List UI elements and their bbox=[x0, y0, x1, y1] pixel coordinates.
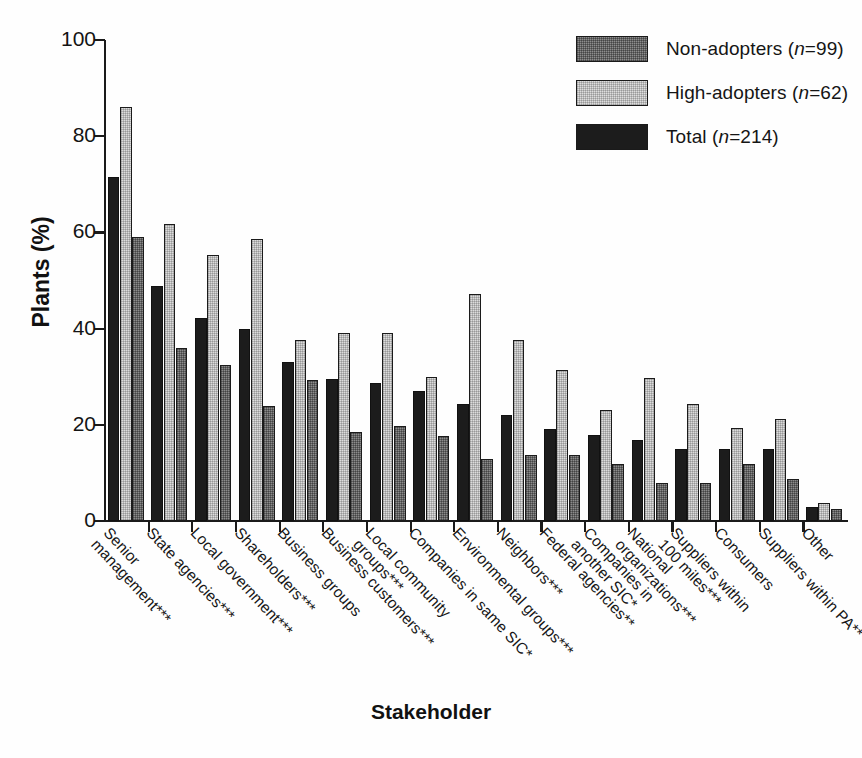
bar-group bbox=[544, 40, 580, 521]
bar-non[interactable] bbox=[700, 483, 712, 521]
bar-group bbox=[108, 40, 144, 521]
x-axis-category-labels: Seniormanagement***State agencies***Loca… bbox=[105, 524, 862, 714]
bar-total[interactable] bbox=[763, 449, 775, 521]
bar-total[interactable] bbox=[806, 507, 818, 521]
bar-high[interactable] bbox=[687, 404, 699, 521]
bar-non[interactable] bbox=[569, 455, 581, 521]
y-axis-title: Plants (%) bbox=[28, 216, 55, 327]
bar-total[interactable] bbox=[370, 383, 382, 521]
x-category-label-line: Other bbox=[798, 524, 837, 564]
bar-group bbox=[326, 40, 362, 521]
bar-high[interactable] bbox=[775, 419, 787, 521]
bar-total[interactable] bbox=[501, 415, 513, 521]
bar-group bbox=[588, 40, 624, 521]
y-tick-label: 60 bbox=[73, 219, 96, 243]
x-axis-title: Stakeholder bbox=[0, 700, 862, 724]
bar-group bbox=[763, 40, 799, 521]
bar-high[interactable] bbox=[120, 107, 132, 521]
bar-non[interactable] bbox=[481, 459, 493, 521]
bar-high[interactable] bbox=[600, 410, 612, 521]
bar-non[interactable] bbox=[525, 455, 537, 521]
bar-non[interactable] bbox=[176, 348, 188, 521]
bar-non[interactable] bbox=[132, 237, 144, 521]
bar-total[interactable] bbox=[675, 449, 687, 521]
bar-non[interactable] bbox=[787, 479, 799, 521]
bar-group bbox=[370, 40, 406, 521]
bar-high[interactable] bbox=[469, 294, 481, 521]
bar-high[interactable] bbox=[295, 340, 307, 521]
bar-non[interactable] bbox=[394, 426, 406, 521]
bar-non[interactable] bbox=[350, 432, 362, 521]
bar-group bbox=[632, 40, 668, 521]
bar-high[interactable] bbox=[207, 255, 219, 521]
bar-non[interactable] bbox=[438, 436, 450, 521]
y-tick-label: 20 bbox=[73, 412, 96, 436]
y-tick-label: 80 bbox=[73, 123, 96, 147]
bar-total[interactable] bbox=[413, 391, 425, 521]
bar-total[interactable] bbox=[544, 429, 556, 521]
bar-non[interactable] bbox=[743, 464, 755, 521]
bar-series-container bbox=[105, 40, 847, 521]
bar-group bbox=[151, 40, 187, 521]
bar-group bbox=[282, 40, 318, 521]
bar-non[interactable] bbox=[220, 365, 232, 521]
bar-group bbox=[195, 40, 231, 521]
bar-high[interactable] bbox=[382, 333, 394, 521]
bar-high[interactable] bbox=[556, 370, 568, 521]
bar-total[interactable] bbox=[239, 329, 251, 521]
bar-group bbox=[413, 40, 449, 521]
bar-total[interactable] bbox=[282, 362, 294, 521]
bar-high[interactable] bbox=[426, 377, 438, 521]
bar-non[interactable] bbox=[263, 406, 275, 521]
bar-total[interactable] bbox=[588, 435, 600, 521]
y-tick-label: 0 bbox=[84, 508, 96, 532]
bar-high[interactable] bbox=[251, 239, 263, 521]
bar-total[interactable] bbox=[195, 318, 207, 521]
y-tick-label: 40 bbox=[73, 316, 96, 340]
bar-non[interactable] bbox=[831, 509, 843, 521]
bar-total[interactable] bbox=[151, 286, 163, 521]
bar-high[interactable] bbox=[164, 224, 176, 521]
bar-high[interactable] bbox=[513, 340, 525, 521]
bar-total[interactable] bbox=[108, 177, 120, 521]
bar-non[interactable] bbox=[307, 380, 319, 521]
y-tick-label: 100 bbox=[61, 27, 96, 51]
bar-group bbox=[457, 40, 493, 521]
bar-total[interactable] bbox=[632, 440, 644, 521]
bar-group bbox=[675, 40, 711, 521]
x-category-label: Other bbox=[798, 524, 837, 564]
bar-high[interactable] bbox=[818, 503, 830, 521]
chart-figure: Non-adopters (n=99)High-adopters (n=62)T… bbox=[0, 0, 862, 758]
bar-group bbox=[501, 40, 537, 521]
bar-total[interactable] bbox=[326, 379, 338, 521]
bar-non[interactable] bbox=[656, 483, 668, 521]
bar-high[interactable] bbox=[731, 428, 743, 521]
bar-non[interactable] bbox=[612, 464, 624, 521]
bar-group bbox=[719, 40, 755, 521]
plot-area: 020406080100 Plants (%) bbox=[105, 40, 847, 521]
bar-total[interactable] bbox=[457, 404, 469, 521]
bar-total[interactable] bbox=[719, 449, 731, 521]
bar-group bbox=[239, 40, 275, 521]
bar-group bbox=[806, 40, 842, 521]
x-category-label: Seniormanagement*** bbox=[87, 524, 186, 627]
bar-high[interactable] bbox=[644, 378, 656, 521]
bar-high[interactable] bbox=[338, 333, 350, 521]
